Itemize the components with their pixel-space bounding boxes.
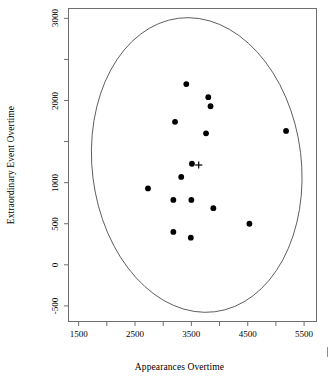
y-tick-label: -500	[48, 289, 62, 323]
data-point	[170, 197, 176, 203]
data-point	[188, 197, 194, 203]
x-tick-label: 1500	[59, 329, 99, 339]
data-point	[178, 174, 184, 180]
data-point	[189, 161, 195, 167]
y-tick-label: 3000	[48, 1, 62, 35]
data-point	[145, 186, 151, 192]
x-axis-ticks	[79, 322, 304, 327]
data-point	[172, 119, 178, 125]
data-point	[203, 130, 209, 136]
y-tick-label: 2000	[48, 84, 62, 118]
data-point	[205, 94, 211, 100]
y-axis-ticks	[64, 18, 69, 306]
scatter-plot-figure: 15002500350045005500 -500050010002000300…	[0, 0, 333, 381]
data-point	[283, 128, 289, 134]
data-point	[183, 81, 189, 87]
y-axis-title: Extraordinary Event Overtime	[3, 0, 19, 330]
corner-tick-mark	[327, 347, 332, 357]
y-tick-label: 0	[48, 248, 62, 282]
data-point	[188, 235, 194, 241]
y-tick-label: 1000	[48, 166, 62, 200]
data-point	[247, 221, 253, 227]
data-point	[208, 103, 214, 109]
x-tick-label: 3500	[171, 329, 211, 339]
centroid-marker	[195, 161, 202, 168]
data-point	[210, 205, 216, 211]
x-tick-label: 2500	[115, 329, 155, 339]
y-tick-label: 500	[48, 207, 62, 241]
data-points	[145, 81, 289, 240]
x-axis-title: Appearances Overtime	[0, 362, 333, 372]
x-tick-label: 4500	[228, 329, 268, 339]
data-point	[170, 229, 176, 235]
y-axis-title-wrap: Extraordinary Event Overtime	[3, 0, 19, 330]
x-tick-label: 5500	[284, 329, 324, 339]
